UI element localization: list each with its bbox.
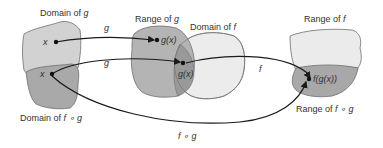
composition-diagram: Domain of g Range of g Domain of f Range… [0, 0, 383, 148]
point-fgx [307, 77, 311, 81]
label-arrow-f: f [259, 64, 263, 74]
label-arrow-g-bottom: g [104, 58, 109, 68]
point-x-top [54, 40, 58, 44]
label-range-of-f: Range of f [304, 14, 347, 24]
label-gx-top: g(x) [161, 35, 177, 45]
label-range-of-g: Range of g [135, 14, 179, 24]
range-of-f-region [290, 29, 361, 70]
point-gx-overlap [181, 61, 185, 65]
label-range-of-fog: Range of f ∘ g [296, 104, 354, 114]
point-x-bottom [50, 72, 54, 76]
label-x-bottom: x [39, 69, 45, 79]
label-domain-of-fog: Domain of f ∘ g [20, 113, 82, 123]
label-arrow-fog: f ∘ g [178, 131, 197, 141]
label-gx-overlap: g(x) [178, 69, 194, 79]
label-arrow-g-top: g [104, 23, 109, 33]
label-domain-of-g: Domain of g [40, 8, 89, 18]
domain-of-fog-region [26, 64, 79, 109]
label-x-top: x [42, 37, 48, 47]
label-fgx: f(g(x)) [313, 74, 337, 84]
point-gx-top [155, 38, 159, 42]
label-domain-of-f: Domain of f [190, 22, 238, 32]
